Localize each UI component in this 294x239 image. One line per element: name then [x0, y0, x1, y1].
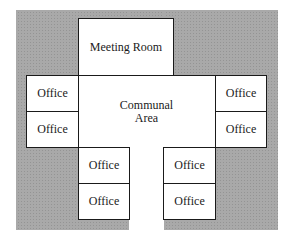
office-label: Office: [174, 159, 204, 172]
communal-area: Communal Area: [78, 75, 215, 147]
office-label: Office: [226, 87, 256, 100]
office-bottom-left-bottom: Office: [78, 183, 130, 220]
office-label: Office: [37, 123, 67, 136]
office-bottom-right-bottom: Office: [163, 183, 216, 220]
office-label: Office: [89, 195, 119, 208]
office-label: Office: [226, 123, 256, 136]
office-right-bottom: Office: [215, 111, 267, 148]
office-bottom-right-top: Office: [163, 147, 216, 184]
meeting-room: Meeting Room: [78, 18, 174, 76]
communal-area-label: Communal Area: [120, 99, 173, 125]
communal-corridor: [129, 146, 164, 239]
office-bottom-left-top: Office: [78, 147, 130, 184]
office-label: Office: [174, 195, 204, 208]
office-left-bottom: Office: [26, 111, 79, 148]
office-label: Office: [89, 159, 119, 172]
office-left-top: Office: [26, 75, 79, 112]
office-label: Office: [37, 87, 67, 100]
meeting-room-label: Meeting Room: [90, 41, 162, 54]
office-right-top: Office: [215, 75, 267, 112]
